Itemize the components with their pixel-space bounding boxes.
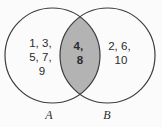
region-b-line-1: 2, 6, xyxy=(108,40,130,52)
intersection-line-1: 4, xyxy=(74,40,84,52)
region-a-line-3: 9 xyxy=(39,65,45,77)
venn-svg: 1, 3, 5, 7, 9 4, 8 2, 6, 10 A B xyxy=(0,0,162,127)
venn-diagram: 1, 3, 5, 7, 9 4, 8 2, 6, 10 A B xyxy=(0,0,162,127)
set-b-label: B xyxy=(103,108,111,122)
intersection-line-2: 8 xyxy=(77,54,84,66)
region-a-line-2: 5, 7, xyxy=(29,51,51,63)
region-b-line-2: 10 xyxy=(115,54,128,66)
region-a-values: 1, 3, 5, 7, 9 xyxy=(29,37,55,77)
region-b-values: 2, 6, 10 xyxy=(108,40,134,66)
set-a-label: A xyxy=(44,108,53,122)
region-a-line-1: 1, 3, xyxy=(29,37,51,49)
